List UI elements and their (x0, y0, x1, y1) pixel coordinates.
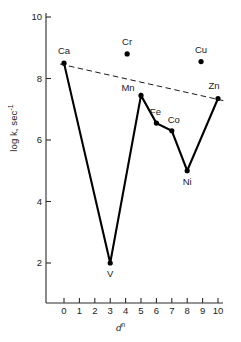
data-point-label-Co: Co (168, 114, 180, 125)
x-axis-label-exponent: n (121, 321, 125, 328)
x-axis-tick-label: 0 (61, 305, 66, 316)
data-point-Fe (154, 120, 159, 125)
x-axis-tick-label: 10 (213, 305, 224, 316)
data-point-V (108, 260, 113, 265)
y-axis-tick-label: 6 (37, 134, 42, 145)
data-point-label-Ca: Ca (58, 45, 71, 56)
y-axis-label-exponent: -1 (7, 104, 14, 110)
y-axis-tick-label: 10 (31, 11, 42, 22)
x-axis-tick-label: 5 (138, 305, 143, 316)
x-axis-tick-label: 1 (77, 305, 82, 316)
x-axis-tick-label: 7 (169, 305, 174, 316)
data-point-Co (169, 128, 174, 133)
data-point-Cr (125, 51, 130, 56)
x-axis-tick-label: 3 (108, 305, 113, 316)
data-point-Cu (198, 59, 203, 64)
data-point-label-Cr: Cr (122, 36, 132, 47)
x-axis-tick-label: 4 (123, 305, 128, 316)
data-point-label-Fe: Fe (150, 106, 161, 117)
y-axis-tick-label: 2 (37, 257, 42, 268)
data-point-label-Ni: Ni (183, 176, 192, 187)
data-point-label-Zn: Zn (208, 80, 219, 91)
y-axis-tick-label: 8 (37, 73, 42, 84)
y-axis-tick-label: 4 (37, 196, 42, 207)
y-axis-label: log k, sec-1 (8, 68, 24, 188)
x-axis-tick-label: 9 (200, 305, 205, 316)
plot-area: 246810012345678910CaVMnFeCoNiZnCrCu (0, 0, 241, 342)
chart-figure: 246810012345678910CaVMnFeCoNiZnCrCu log … (0, 0, 241, 342)
data-point-label-Cu: Cu (195, 44, 207, 55)
data-point-label-Mn: Mn (121, 82, 134, 93)
data-point-Ni (185, 168, 190, 173)
x-axis-label: dn (0, 322, 241, 333)
data-point-label-V: V (107, 268, 114, 279)
y-axis-label-text: log k, sec (8, 111, 19, 152)
x-axis-tick-label: 6 (154, 305, 159, 316)
x-axis-tick-label: 2 (92, 305, 97, 316)
x-axis-tick-label: 8 (185, 305, 190, 316)
data-point-Mn (138, 93, 143, 98)
